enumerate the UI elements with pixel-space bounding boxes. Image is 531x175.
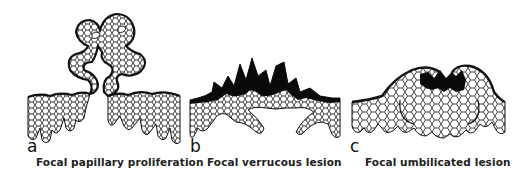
panel-a-illustration — [28, 14, 180, 144]
lesion-diagram — [0, 0, 531, 175]
papillary-fronds — [69, 14, 145, 96]
epithelium-right — [108, 92, 180, 143]
panel-b-letter: b — [190, 138, 201, 155]
panel-a-letter: a — [27, 138, 37, 155]
panel-c-illustration — [352, 66, 505, 138]
panel-c-caption: Focal umbilicated lesion — [365, 156, 511, 168]
panel-c-letter: c — [350, 138, 359, 155]
panel-b-illustration — [190, 58, 340, 138]
epithelium-left — [28, 93, 90, 143]
panel-b-caption: Focal verrucous lesion — [207, 156, 342, 168]
panel-a-caption: Focal papillary proliferation — [36, 156, 203, 168]
